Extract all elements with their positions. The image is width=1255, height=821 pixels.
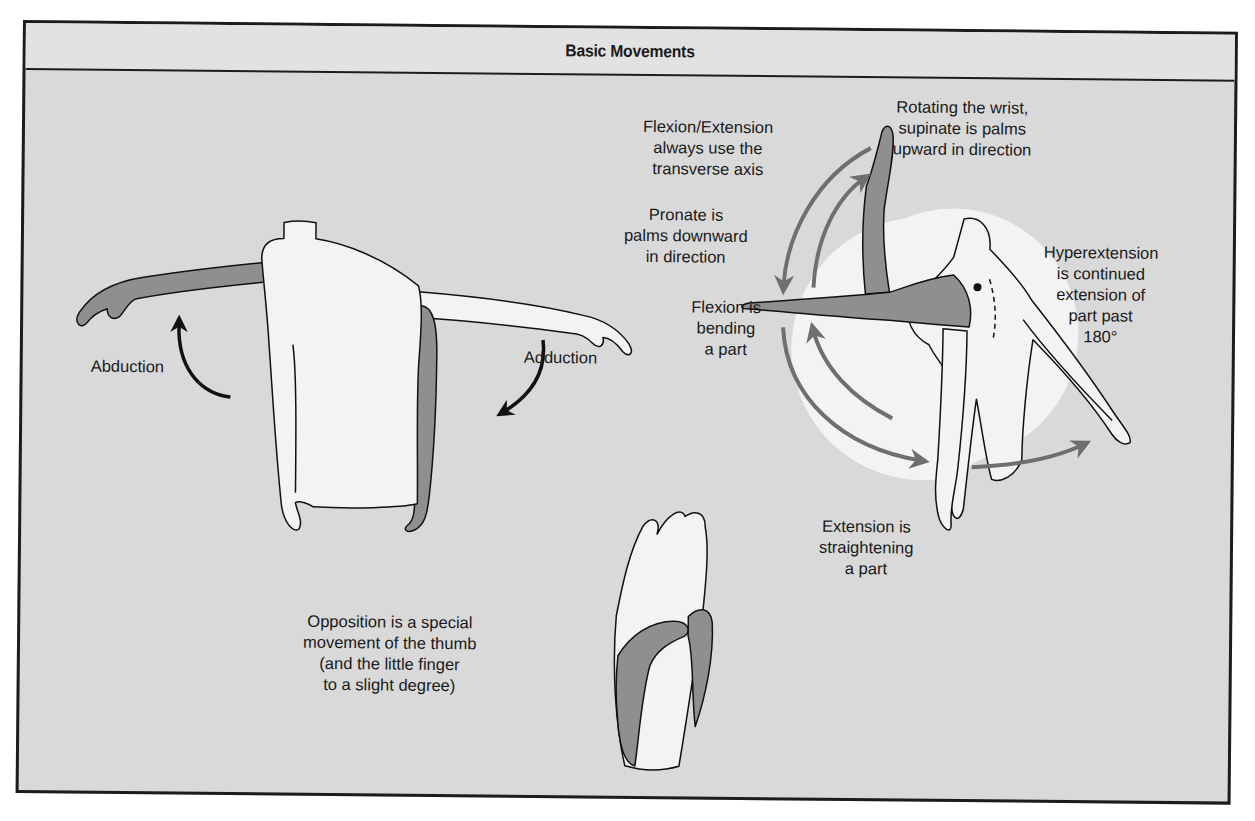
label-abduction: Abduction — [91, 356, 165, 378]
hand-figure — [613, 511, 713, 770]
diagram-canvas: Abduction Adduction Flexion/Extension al… — [19, 70, 1235, 802]
diagram-frame: Basic Movements — [16, 20, 1238, 805]
shoulder-joint-dot — [973, 283, 981, 291]
torso — [259, 221, 422, 531]
outstretched-arm — [418, 292, 632, 355]
diagram-title: Basic Movements — [565, 41, 695, 62]
label-flexion-extension-axis: Flexion/Extension always use the transve… — [643, 116, 774, 180]
abduction-arrow — [178, 322, 231, 397]
label-flexion: Flexion is bending a part — [691, 296, 761, 360]
label-rotating-wrist: Rotating the wrist, supinate is palms up… — [893, 96, 1032, 160]
abducted-arm — [77, 259, 286, 328]
label-pronate: Pronate is palms downward in direction — [624, 204, 748, 268]
label-hyperextension: Hyperextension is continued extension of… — [1043, 242, 1159, 348]
label-extension: Extension is straightening a part — [819, 516, 914, 580]
label-opposition: Opposition is a special movement of the … — [303, 611, 477, 697]
label-adduction: Adduction — [524, 347, 598, 369]
illustrations — [19, 70, 1241, 812]
